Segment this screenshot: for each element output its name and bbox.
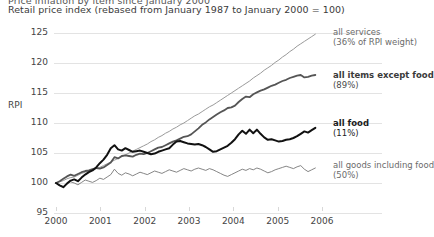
series-label-all-items-except-food: all items except food (89%) [333, 70, 434, 90]
x-tick-label: 2005 [266, 216, 289, 226]
x-tick-mark [189, 207, 190, 211]
x-tick-label: 2006 [311, 216, 334, 226]
x-tick-label: 2004 [222, 216, 245, 226]
series-label-all-food-weight: (11%) [333, 128, 369, 138]
x-tick-mark [322, 207, 323, 211]
series-label-all-items-except-food-name: all items except food [333, 70, 434, 80]
series-label-all-food-name: all food [333, 118, 369, 128]
series-label-all-goods-including-food: all goods including food (50%) [333, 160, 434, 180]
series-label-all-services-name: all services [333, 27, 381, 37]
series-line-all-items-except-food [56, 75, 315, 183]
x-tick-label: 2000 [45, 216, 68, 226]
series-label-all-items-except-food-weight: (89%) [333, 80, 434, 90]
series-label-all-services: all services (36% of RPI weight) [333, 27, 417, 47]
series-line-all-services [56, 34, 315, 183]
series-label-all-services-weight: (36% of RPI weight) [333, 37, 417, 47]
series-label-all-food: all food (11%) [333, 118, 369, 138]
x-tick-mark [233, 207, 234, 211]
series-label-all-goods-including-food-name: all goods including food [333, 160, 434, 170]
x-tick-mark [278, 207, 279, 211]
x-tick-label: 2003 [178, 216, 201, 226]
x-tick-label: 2002 [133, 216, 156, 226]
x-tick-mark [100, 207, 101, 211]
x-tick-label: 2001 [89, 216, 112, 226]
x-tick-mark [145, 207, 146, 211]
series-label-all-goods-including-food-weight: (50%) [333, 170, 434, 180]
x-tick-mark [56, 207, 57, 211]
